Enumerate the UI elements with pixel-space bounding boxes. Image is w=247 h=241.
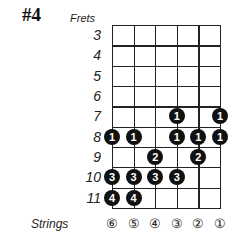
string-number: ② [190,216,206,231]
fret-line [112,188,221,189]
fret-number: 5 [75,66,101,86]
finger-dot: 4 [104,190,120,206]
fret-number: 8 [75,127,101,147]
fret-line [112,25,221,26]
fret-line [112,45,221,46]
finger-dot: 1 [212,108,228,124]
fret-line [112,127,221,128]
finger-dot: 3 [104,169,120,185]
fret-number: 10 [75,167,101,187]
fret-number: 11 [75,188,101,208]
fret-line [112,106,221,107]
fret-line [112,167,221,168]
finger-dot: 1 [212,129,228,145]
finger-dot: 3 [169,169,185,185]
string-number: ③ [169,216,185,231]
string-number: ① [212,216,228,231]
string-number: ⑥ [104,216,120,231]
fret-line [112,208,221,209]
fret-number: 6 [75,86,101,106]
finger-dot: 2 [147,149,163,165]
string-number: ⑤ [126,216,142,231]
fret-number: 9 [75,147,101,167]
fret-line [112,66,221,67]
fret-number: 3 [75,25,101,45]
finger-dot: 1 [190,129,206,145]
fret-number: 4 [75,45,101,65]
strings-label: Strings [31,217,68,231]
frets-label: Frets [70,12,95,24]
string-number: ④ [147,216,163,231]
finger-dot: 4 [126,190,142,206]
fret-line [112,147,221,148]
fret-number: 7 [75,106,101,126]
finger-dot: 3 [147,169,163,185]
finger-dot: 3 [126,169,142,185]
diagram-title: #4 [22,4,41,26]
finger-dot: 1 [169,108,185,124]
fretboard-grid: 111111122333344 [112,25,220,208]
finger-dot: 1 [169,129,185,145]
fret-line [112,86,221,87]
finger-dot: 1 [104,129,120,145]
finger-dot: 1 [126,129,142,145]
string-line [198,25,199,209]
finger-dot: 2 [190,149,206,165]
